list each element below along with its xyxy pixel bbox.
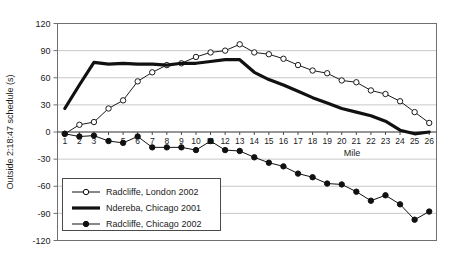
data-point — [135, 79, 140, 84]
data-point — [150, 70, 155, 75]
data-point — [354, 80, 359, 85]
legend-label: Radcliffe, Chicago 2002 — [106, 219, 201, 229]
data-point — [427, 209, 432, 214]
x-tick-label: 16 — [279, 136, 289, 146]
data-point — [222, 147, 227, 152]
legend-label: Radcliffe, London 2002 — [106, 187, 198, 197]
y-tick-label: -120 — [32, 236, 50, 246]
chart-figure: 1209060300-30-60-90-120 1234567891011121… — [0, 0, 452, 261]
data-point — [135, 134, 140, 139]
y-tick-label: -60 — [37, 181, 50, 191]
line-chart: 1209060300-30-60-90-120 1234567891011121… — [0, 0, 452, 261]
data-point — [106, 106, 111, 111]
data-point — [412, 217, 417, 222]
y-tick-label: -30 — [37, 154, 50, 164]
data-point — [339, 182, 344, 187]
legend-swatch-marker — [83, 189, 88, 194]
data-point — [77, 122, 82, 127]
x-tick-label: 1 — [62, 136, 67, 146]
data-point — [295, 171, 300, 176]
data-point — [266, 160, 271, 165]
x-tick-label: 25 — [410, 136, 420, 146]
y-tick-label: 30 — [40, 100, 50, 110]
y-tick-label: 90 — [40, 46, 50, 56]
data-point — [368, 88, 373, 93]
data-point — [281, 164, 286, 169]
data-point — [91, 133, 96, 138]
data-point — [150, 145, 155, 150]
x-tick-label: 24 — [395, 136, 405, 146]
y-tick-label: 0 — [45, 127, 50, 137]
data-point — [91, 119, 96, 124]
data-point — [106, 138, 111, 143]
data-point — [383, 193, 388, 198]
data-point — [222, 48, 227, 53]
data-point — [237, 148, 242, 153]
x-tick-label: 15 — [264, 136, 274, 146]
data-point — [397, 99, 402, 104]
data-point — [77, 134, 82, 139]
data-point — [310, 175, 315, 180]
x-tick-label: 14 — [250, 136, 260, 146]
data-point — [193, 54, 198, 59]
data-point — [208, 138, 213, 143]
x-tick-label: 17 — [293, 136, 303, 146]
x-tick-label: 23 — [381, 136, 391, 146]
data-point — [368, 198, 373, 203]
legend-label: Ndereba, Chicago 2001 — [106, 203, 201, 213]
x-axis-title: Mile — [344, 148, 361, 158]
x-tick-label: 18 — [308, 136, 318, 146]
data-point — [324, 71, 329, 76]
x-tick-label: 10 — [191, 136, 201, 146]
legend-swatch-marker — [83, 221, 88, 226]
x-tick-label: 12 — [220, 136, 230, 146]
data-point — [412, 109, 417, 114]
data-point — [397, 202, 402, 207]
data-point — [208, 50, 213, 55]
y-axis-title: Outside 2:18:47 schedule (s) — [5, 74, 15, 189]
data-point — [62, 131, 67, 136]
data-point — [164, 145, 169, 150]
y-tick-label: -90 — [37, 209, 50, 219]
data-point — [427, 120, 432, 125]
data-point — [295, 62, 300, 67]
data-point — [120, 98, 125, 103]
y-tick-label: 120 — [35, 19, 50, 29]
data-point — [193, 147, 198, 152]
data-point — [281, 56, 286, 61]
y-tick-label: 60 — [40, 73, 50, 83]
data-point — [179, 145, 184, 150]
x-tick-label: 20 — [337, 136, 347, 146]
x-tick-label: 13 — [235, 136, 245, 146]
data-point — [252, 50, 257, 55]
data-point — [354, 189, 359, 194]
data-point — [237, 42, 242, 47]
data-point — [252, 155, 257, 160]
data-point — [339, 78, 344, 83]
x-tick-label: 22 — [366, 136, 376, 146]
data-point — [324, 181, 329, 186]
x-tick-label: 26 — [424, 136, 434, 146]
data-point — [266, 52, 271, 57]
x-tick-label: 21 — [352, 136, 362, 146]
data-point — [310, 68, 315, 73]
x-tick-label: 19 — [322, 136, 332, 146]
chart-legend: Radcliffe, London 2002Ndereba, Chicago 2… — [63, 179, 221, 231]
data-point — [383, 91, 388, 96]
data-point — [120, 140, 125, 145]
